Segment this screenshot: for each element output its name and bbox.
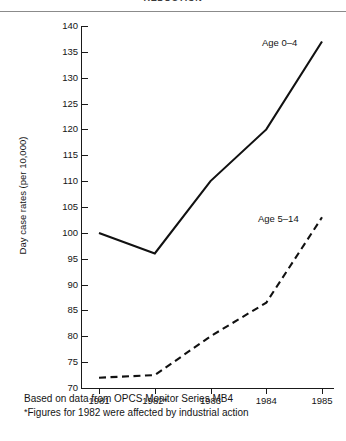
chart-page: REDUCTION Day case rates (per 10,000) 14… bbox=[0, 0, 346, 441]
series-label-age-0-4: Age 0–4 bbox=[262, 38, 297, 48]
series-line-age-5-14 bbox=[99, 217, 322, 377]
footnote-note: Figures for 1982 were affected by indust… bbox=[28, 407, 249, 418]
series-label-age-5-14: Age 5–14 bbox=[258, 214, 299, 224]
plot-area: Day case rates (per 10,000) 140135130125… bbox=[0, 12, 346, 390]
clipped-header-title: REDUCTION bbox=[0, 0, 346, 3]
footnote-source: Based on data from OPCS Monitor Series M… bbox=[24, 392, 346, 406]
chart-footnotes: Based on data from OPCS Monitor Series M… bbox=[0, 392, 346, 419]
footnote-note-row: *Figures for 1982 were affected by indus… bbox=[24, 406, 346, 420]
series-lines bbox=[0, 12, 346, 390]
